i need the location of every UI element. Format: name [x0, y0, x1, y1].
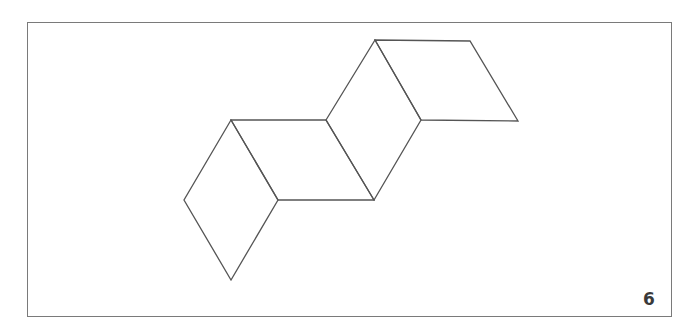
rhombus-3 — [326, 40, 421, 200]
rhombus-2 — [231, 120, 374, 200]
rhombus-figure — [0, 0, 698, 333]
rhombus-1 — [184, 120, 278, 280]
page-number: 6 — [643, 289, 655, 309]
rhombus-4 — [375, 40, 518, 121]
